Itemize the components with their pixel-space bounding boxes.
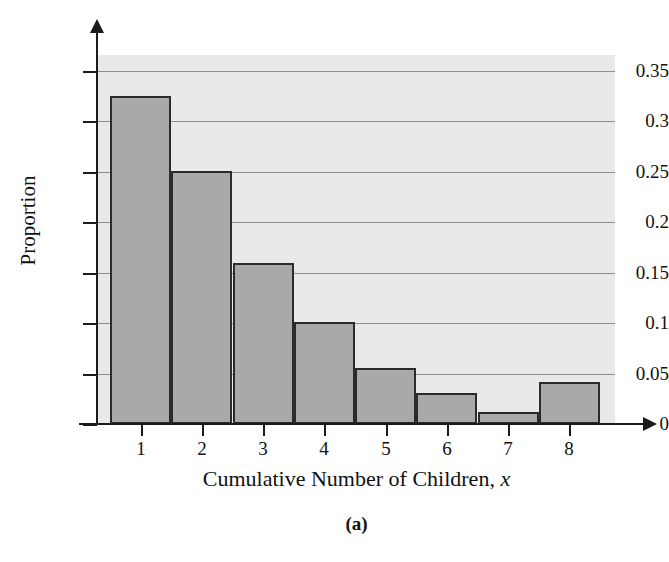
bar	[110, 96, 171, 424]
x-axis-line	[79, 423, 645, 425]
figure-caption: (a)	[98, 513, 615, 535]
y-axis-line	[96, 30, 98, 425]
x-tick-mark	[263, 425, 265, 436]
y-tick-label: 0.2	[593, 212, 669, 231]
x-tick-mark	[386, 425, 388, 436]
y-tick-mark	[83, 172, 97, 174]
bar	[355, 368, 416, 424]
x-tick-mark	[202, 425, 204, 436]
x-tick-label: 4	[304, 439, 344, 458]
x-tick-label: 8	[549, 439, 589, 458]
x-tick-mark	[508, 425, 510, 436]
y-axis-arrow-icon	[90, 19, 104, 33]
x-axis-title-text: Cumulative Number of Children,	[203, 466, 495, 491]
bar	[233, 263, 294, 424]
x-tick-label: 6	[427, 439, 467, 458]
figure-container: 00.050.10.150.20.250.30.35 12345678 Prop…	[0, 0, 669, 562]
x-tick-label: 7	[488, 439, 528, 458]
gridline	[98, 121, 615, 122]
y-tick-label: 0	[593, 414, 669, 433]
x-axis-title: Cumulative Number of Children, x	[98, 466, 615, 492]
x-tick-mark	[569, 425, 571, 436]
x-tick-label: 2	[182, 439, 222, 458]
gridline	[98, 71, 615, 72]
x-axis-title-variable: x	[500, 466, 510, 491]
x-tick-label: 3	[243, 439, 283, 458]
y-tick-label: 0.1	[593, 313, 669, 332]
x-tick-label: 1	[121, 439, 161, 458]
bar	[539, 382, 600, 424]
y-tick-mark	[83, 71, 97, 73]
y-tick-label: 0.25	[593, 162, 669, 181]
bar	[171, 171, 232, 424]
y-tick-mark	[83, 374, 97, 376]
y-axis-title: Proportion	[16, 121, 41, 321]
x-tick-mark	[447, 425, 449, 436]
y-tick-label: 0.05	[593, 364, 669, 383]
x-tick-mark	[324, 425, 326, 436]
bar	[294, 322, 355, 424]
y-tick-label: 0.35	[593, 61, 669, 80]
y-tick-mark	[83, 273, 97, 275]
y-tick-mark	[83, 222, 97, 224]
y-tick-label: 0.3	[593, 111, 669, 130]
y-tick-mark	[83, 121, 97, 123]
y-tick-label: 0.15	[593, 263, 669, 282]
y-tick-mark	[83, 424, 97, 426]
x-tick-label: 5	[366, 439, 406, 458]
y-tick-mark	[83, 323, 97, 325]
bar	[416, 393, 477, 424]
x-tick-mark	[141, 425, 143, 436]
